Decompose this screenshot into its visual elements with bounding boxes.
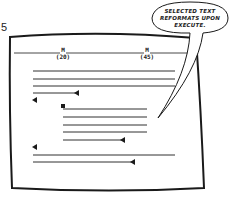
margin-marker-left: M (20) — [51, 47, 75, 60]
paragraph-1 — [33, 71, 175, 93]
callout-line: REFORMATS UPON — [158, 15, 222, 22]
callout-line: EXECUTE. — [158, 22, 222, 29]
callout-text: SELECTED TEXT REFORMATS UPON EXECUTE. — [158, 8, 222, 29]
paragraph-end-arrow-icon — [120, 137, 125, 143]
paragraph-start-arrow-icon — [32, 144, 37, 150]
callout-line: SELECTED TEXT — [158, 8, 222, 15]
paragraph-end-arrow-icon — [130, 159, 135, 165]
margin-value: (20) — [51, 54, 75, 60]
paragraph-start-arrow-icon — [32, 97, 37, 103]
paragraph-3 — [33, 155, 175, 162]
margin-value: (45) — [135, 54, 159, 60]
block-cursor-icon — [61, 104, 65, 108]
paragraph-end-arrow-icon — [74, 90, 79, 96]
margin-marker-right: M (45) — [135, 47, 159, 60]
screen-frame — [10, 34, 204, 191]
diagram-canvas — [0, 0, 232, 198]
selected-paragraph — [63, 109, 147, 140]
